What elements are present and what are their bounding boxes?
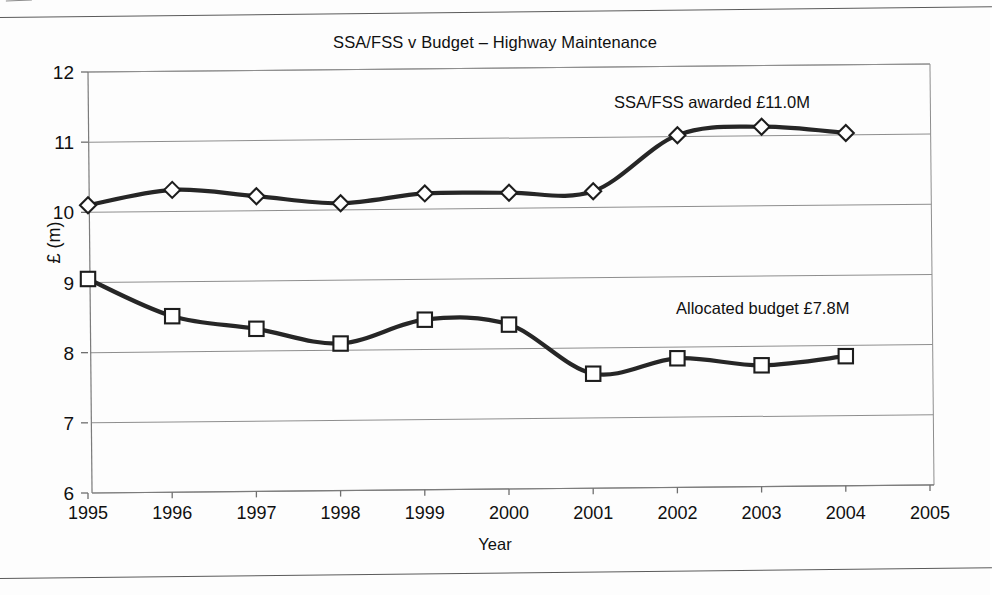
- y-tick-label: 10: [53, 202, 74, 223]
- data-point-marker: [333, 336, 347, 350]
- data-point-marker: [501, 185, 517, 201]
- y-tick-label: 9: [63, 273, 74, 294]
- data-point-marker: [80, 197, 96, 213]
- y-tick-label: 11: [54, 132, 74, 153]
- annotation-ssa-awarded: SSA/FSS awarded £11.0M: [614, 93, 810, 112]
- axis-ticks: [81, 72, 930, 499]
- x-tick-label: 1998: [321, 503, 361, 523]
- data-point-marker: [670, 351, 684, 365]
- x-tick-label: 2002: [657, 503, 697, 523]
- data-point-marker: [165, 309, 179, 323]
- series-line: [88, 279, 846, 375]
- data-point-marker: [248, 188, 264, 204]
- x-tick-label: 2005: [910, 503, 950, 523]
- series-allocated-budget: [81, 272, 853, 381]
- y-tick-label: 6: [63, 483, 74, 504]
- x-tick-label: 2001: [573, 503, 613, 523]
- data-point-marker: [838, 125, 854, 141]
- y-tick-label: 7: [63, 413, 74, 434]
- data-point-marker: [754, 119, 770, 135]
- y-tick-labels: 6789101112: [53, 62, 74, 504]
- y-tick-label: 8: [63, 343, 74, 364]
- annotation-allocated-budget: Allocated budget £7.8M: [676, 299, 849, 318]
- x-tick-label: 2000: [489, 503, 529, 523]
- data-point-marker: [754, 358, 768, 372]
- data-point-marker: [839, 349, 853, 363]
- x-tick-label: 1997: [236, 503, 276, 523]
- x-tick-label: 1996: [152, 503, 192, 523]
- data-point-marker: [81, 272, 95, 286]
- data-point-marker: [249, 322, 263, 336]
- x-tick-label: 1995: [68, 503, 108, 523]
- data-point-marker: [669, 127, 685, 143]
- data-point-marker: [585, 183, 601, 199]
- data-point-marker: [418, 312, 432, 326]
- data-point-marker: [333, 195, 349, 211]
- data-point-marker: [586, 367, 600, 381]
- data-point-marker: [164, 182, 180, 198]
- data-point-marker: [502, 317, 516, 331]
- y-tick-label: 12: [53, 62, 74, 83]
- data-series: [80, 119, 854, 381]
- series-ssa-fss-awarded: [80, 119, 854, 214]
- x-tick-labels: 1995199619971998199920002001200220032004…: [68, 503, 950, 523]
- data-point-marker: [417, 185, 433, 201]
- x-tick-label: 2004: [826, 503, 866, 523]
- x-tick-label: 1999: [405, 503, 445, 523]
- x-tick-label: 2003: [742, 503, 782, 523]
